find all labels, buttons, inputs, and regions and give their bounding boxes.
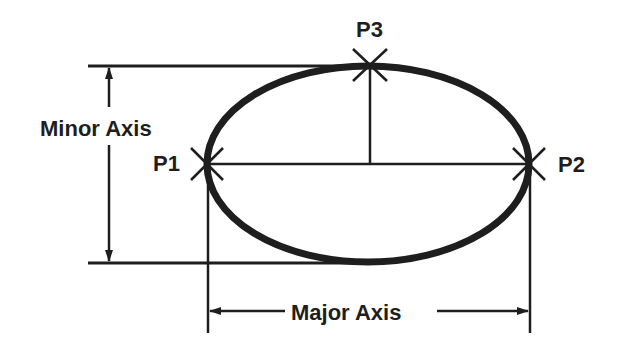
p1-label: P1 xyxy=(153,151,180,176)
p2-label: P2 xyxy=(558,152,585,177)
ellipse-diagram: Minor Axis Major Axis P1 P2 P3 xyxy=(0,0,617,359)
major-axis-label: Major Axis xyxy=(291,300,401,325)
minor-axis-label: Minor Axis xyxy=(40,116,152,141)
p3-label: P3 xyxy=(356,17,383,42)
